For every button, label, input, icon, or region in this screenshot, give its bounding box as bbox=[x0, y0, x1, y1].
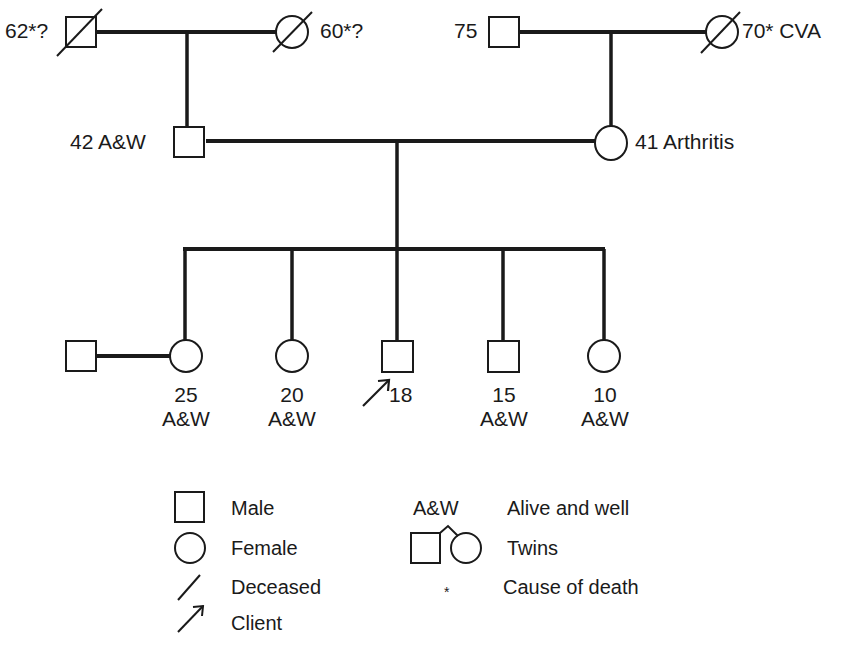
legend-asterisk-label: Cause of death bbox=[503, 575, 639, 599]
maternal-grandfather-symbol bbox=[489, 17, 519, 47]
legend-aw-label: Alive and well bbox=[507, 496, 629, 520]
father-label: 42 A&W bbox=[70, 130, 146, 154]
legend-deceased-icon bbox=[178, 575, 200, 600]
child-2-symbol bbox=[276, 340, 308, 372]
child-1-age: 25 bbox=[156, 383, 216, 407]
child-4-age: 15 bbox=[474, 383, 534, 407]
legend-asterisk-symbol: * bbox=[444, 580, 449, 604]
child-5-age: 10 bbox=[575, 383, 635, 407]
paternal-grandmother-label: 60*? bbox=[320, 19, 363, 43]
legend-twins-label: Twins bbox=[507, 536, 558, 560]
legend-male-label: Male bbox=[231, 496, 274, 520]
child-1-symbol bbox=[170, 340, 202, 372]
legend-female-label: Female bbox=[231, 536, 298, 560]
legend-client-label: Client bbox=[231, 611, 282, 635]
mother-symbol bbox=[595, 126, 627, 160]
child-4-note: A&W bbox=[474, 407, 534, 431]
child-5-note: A&W bbox=[575, 407, 635, 431]
paternal-grandfather-label: 62*? bbox=[5, 19, 48, 43]
child-3-symbol bbox=[382, 341, 413, 372]
spouse-symbol bbox=[66, 341, 96, 371]
child-2-age: 20 bbox=[262, 383, 322, 407]
legend-male-icon bbox=[175, 492, 204, 522]
legend-deceased-label: Deceased bbox=[231, 575, 321, 599]
maternal-grandfather-label: 75 bbox=[454, 19, 477, 43]
child-3-age: 18 bbox=[389, 383, 412, 407]
child-2-note: A&W bbox=[262, 407, 322, 431]
father-symbol bbox=[174, 127, 204, 157]
maternal-grandmother-label: 70* CVA bbox=[742, 19, 821, 43]
legend-female-icon bbox=[175, 533, 205, 563]
child-1-note: A&W bbox=[156, 407, 216, 431]
pedigree-diagram bbox=[0, 0, 858, 647]
legend-aw-symbol: A&W bbox=[413, 496, 459, 520]
child-5-symbol bbox=[588, 340, 620, 372]
mother-label: 41 Arthritis bbox=[635, 130, 734, 154]
legend-twins-icon bbox=[411, 526, 481, 563]
child-4-symbol bbox=[488, 341, 519, 372]
legend-client-icon bbox=[178, 606, 203, 632]
client-arrow-icon bbox=[363, 380, 389, 406]
